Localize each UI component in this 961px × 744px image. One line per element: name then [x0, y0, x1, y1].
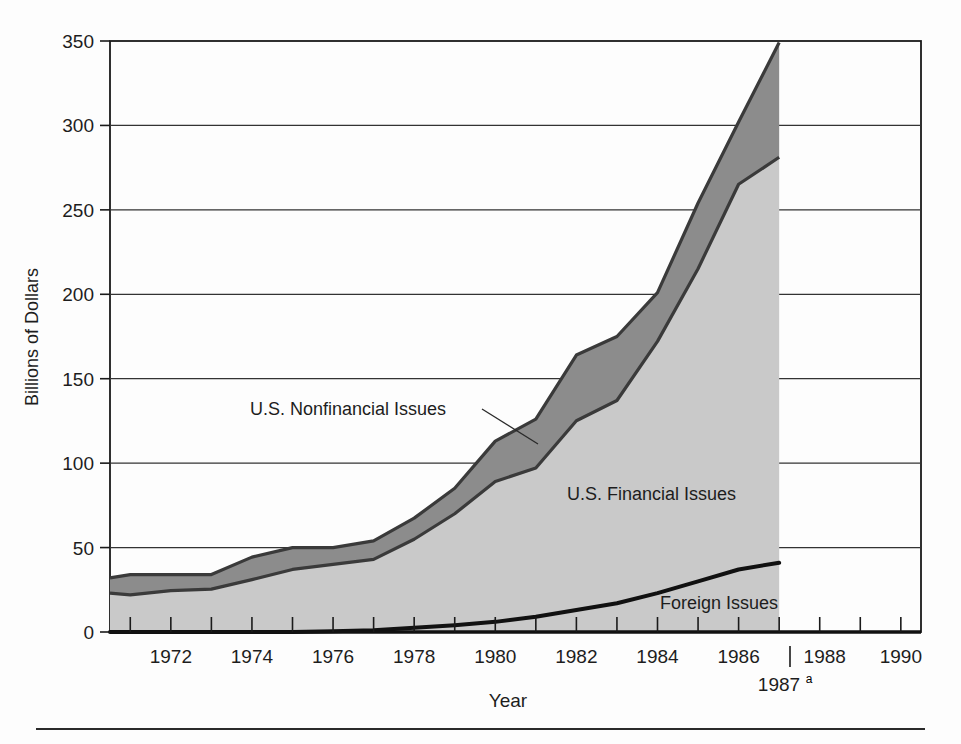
- data-cutoff-year-label: 1987: [758, 674, 800, 695]
- x-tick-label: 1980: [474, 646, 516, 667]
- x-tick-label: 1990: [880, 646, 922, 667]
- annotation-us-nonfinancial-issues: U.S. Nonfinancial Issues: [250, 399, 446, 419]
- x-tick-label: 1978: [393, 646, 435, 667]
- y-tick-label: 100: [62, 453, 94, 474]
- x-tick-label: 1974: [231, 646, 274, 667]
- annotation-foreign-issues: Foreign Issues: [660, 593, 778, 613]
- y-tick-label: 250: [62, 200, 94, 221]
- x-axis-title: Year: [489, 690, 528, 711]
- x-tick-label: 1976: [312, 646, 354, 667]
- y-tick-label: 0: [83, 622, 94, 643]
- y-tick-labels: 350 300 250 200 150 100 50 0: [62, 31, 94, 643]
- y-tick-label: 200: [62, 284, 94, 305]
- x-tick-label: 1988: [804, 646, 846, 667]
- y-tick-label: 150: [62, 369, 94, 390]
- x-tick-label: 1982: [555, 646, 597, 667]
- x-tick-label: 1986: [717, 646, 759, 667]
- data-cutoff-footnote-superscript: a: [806, 672, 813, 686]
- area-us-financial-issues: [110, 157, 779, 632]
- y-tick-marks: [100, 41, 110, 632]
- figure-container: 350 300 250 200 150 100 50 0 1972 1974 1…: [0, 0, 961, 744]
- annotation-us-financial-issues: U.S. Financial Issues: [567, 484, 736, 504]
- x-tick-labels: 1972 1974 1976 1978 1980 1982 1984 1986 …: [150, 646, 922, 667]
- x-tick-label: 1984: [636, 646, 679, 667]
- y-tick-label: 350: [62, 31, 94, 52]
- y-axis-title: Billions of Dollars: [22, 268, 42, 406]
- y-tick-label: 50: [73, 538, 94, 559]
- x-tick-label: 1972: [150, 646, 192, 667]
- area-chart: 350 300 250 200 150 100 50 0 1972 1974 1…: [0, 0, 961, 744]
- y-tick-label: 300: [62, 115, 94, 136]
